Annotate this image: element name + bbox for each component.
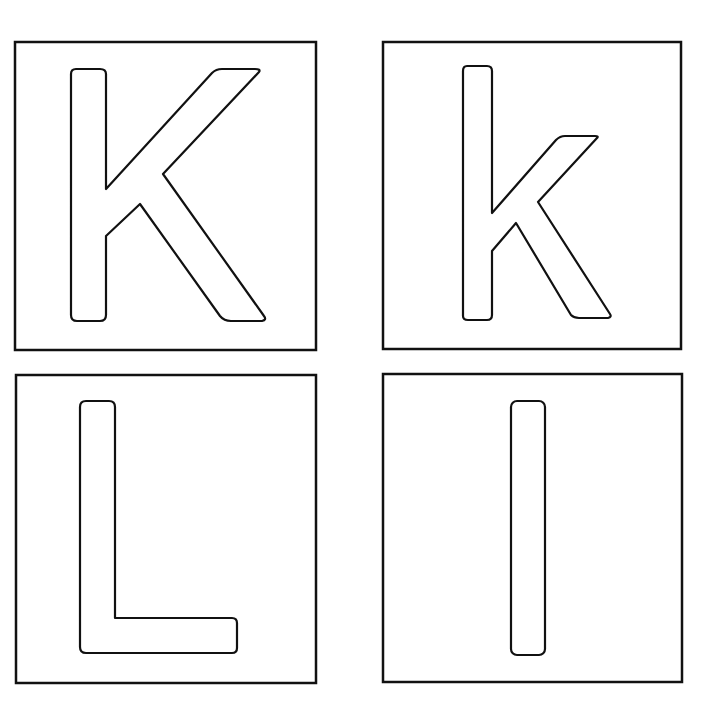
- letter-l-lowercase-outline: [511, 401, 545, 655]
- card-lowercase-l: [383, 374, 682, 682]
- card-lowercase-k: [383, 42, 681, 349]
- letter-cards-canvas: [0, 0, 721, 716]
- card-uppercase-l: [16, 375, 316, 683]
- card-uppercase-k: [15, 42, 316, 350]
